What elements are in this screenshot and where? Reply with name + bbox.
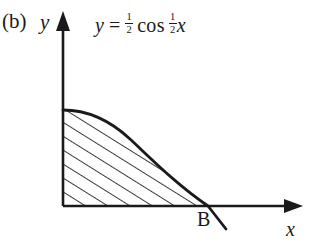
equation-coefficient-fraction: 1 2	[125, 12, 133, 36]
coefficient-numerator: 1	[126, 12, 133, 23]
figure-drawing	[0, 0, 313, 248]
point-label-b: B	[197, 209, 210, 229]
argument-numerator: 1	[169, 12, 176, 23]
figure-container: (b) y x B y = 1 2 cos 1 2 x	[0, 0, 313, 248]
y-axis-label: y	[40, 12, 49, 33]
equation-function-name: cos	[137, 15, 165, 35]
equation-equals-sign: =	[108, 15, 121, 35]
x-axis-label: x	[286, 219, 295, 239]
equation-lhs: y	[95, 15, 104, 35]
equation-argument: 1 2 x	[169, 13, 186, 37]
coefficient-denominator: 2	[126, 25, 133, 36]
argument-denominator: 2	[169, 25, 176, 36]
equation-label: y = 1 2 cos 1 2 x	[95, 13, 186, 37]
argument-fraction: 1 2	[169, 12, 177, 36]
argument-variable: x	[177, 15, 186, 35]
part-label: (b)	[2, 11, 27, 32]
